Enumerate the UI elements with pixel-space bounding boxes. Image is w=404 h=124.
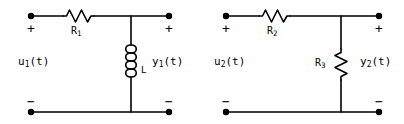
polarity-sign-left-out-top: + [165,22,173,35]
port-label-y2-base: y [360,55,367,68]
component-label-r1: R1 [71,26,82,37]
port-label-y2-arg: (t) [371,55,391,68]
port-label-y1-base: y [152,55,159,68]
component-label-r3: R3 [315,58,326,69]
component-label-r2-sub: 2 [273,29,278,38]
inductor-loop-3 [126,61,137,69]
component-label-r3-sub: 3 [321,61,326,70]
component-label-l-base: L [141,65,146,75]
terminal-dot-icon-right-out-top [376,13,381,18]
circuit-schematic-svg [0,0,404,124]
component-label-r2: R2 [267,26,278,37]
terminal-dot-icon-left-in-bottom [28,109,33,114]
terminal-dot-icon-left-in-top [28,13,33,18]
polarity-sign-left-out-bottom: − [165,95,173,108]
polarity-sign-right-out-bottom: − [375,95,383,108]
port-label-u2: u2(t) [214,56,245,69]
circuit-left-wires [31,10,169,112]
polarity-sign-right-in-top: + [222,22,230,35]
inductor-loop-4 [126,69,137,77]
port-label-u1-base: u [18,55,25,68]
component-label-l: L [141,66,146,75]
port-label-u1-arg: (t) [29,55,49,68]
polarity-sign-right-out-top: + [375,22,383,35]
polarity-sign-left-in-bottom: − [27,95,35,108]
resistor-zigzag-r2 [259,10,290,22]
terminal-dot-icon-right-out-bottom [376,109,381,114]
port-label-u2-arg: (t) [225,55,245,68]
port-label-u1: u1(t) [18,56,49,69]
terminal-dot-icon-left-out-top [166,13,171,18]
port-label-y1-arg: (t) [163,55,183,68]
circuit-right-wires [226,10,379,112]
terminal-dot-icon-right-in-top [223,13,228,18]
polarity-sign-right-in-bottom: − [222,95,230,108]
component-label-r1-sub: 1 [77,29,82,38]
port-label-u2-base: u [214,55,221,68]
resistor-zigzag-r3 [335,49,347,80]
terminal-dot-icon-right-in-bottom [223,109,228,114]
port-label-y1: y1(t) [152,56,183,69]
port-label-y2: y2(t) [360,56,391,69]
circuit-diagram-figure: + − + − R1 L u1(t) y1(t) + − + − R2 R3 u… [0,0,404,124]
inductor-loop-2 [126,53,137,61]
inductor-loop-1 [126,45,137,53]
terminal-dot-icon-left-out-bottom [166,109,171,114]
resistor-zigzag-r1 [63,10,94,22]
polarity-sign-left-in-top: + [27,22,35,35]
